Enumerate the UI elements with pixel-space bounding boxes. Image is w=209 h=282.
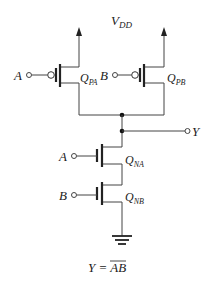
vdd-arrow-icon <box>161 27 167 36</box>
transistor-qpa: A QPA <box>13 27 98 115</box>
equation: Y = AB <box>88 260 126 275</box>
input-b-terminal <box>72 193 77 198</box>
input-b-label: B <box>59 188 67 203</box>
qnb-label: QNB <box>125 190 144 206</box>
vdd-label: VDD <box>111 13 132 30</box>
qpb-bubble-icon <box>132 72 139 79</box>
qpa-label: QPA <box>80 71 98 87</box>
output-y-label: Y <box>192 124 201 139</box>
transistor-qpb: B QPB <box>100 27 186 115</box>
input-b-label: B <box>100 68 108 83</box>
output-y-terminal <box>185 129 190 134</box>
vdd-arrow-icon <box>76 27 82 36</box>
input-b-terminal <box>113 73 118 78</box>
input-a-terminal <box>27 73 32 78</box>
qna-label: QNA <box>125 153 144 169</box>
nand-gate-schematic: VDD A QPA B QPB Y <box>0 0 209 282</box>
transistor-qnb: B QNB <box>59 182 144 236</box>
qpa-bubble-icon <box>48 72 55 79</box>
qpb-label: QPB <box>167 71 186 87</box>
input-a-label: A <box>13 68 22 83</box>
input-a-terminal <box>72 154 77 159</box>
input-a-label: A <box>58 149 67 164</box>
equation-rhs: AB <box>109 260 126 275</box>
transistor-qna: A QNA <box>58 144 144 185</box>
ground-icon <box>112 236 132 244</box>
